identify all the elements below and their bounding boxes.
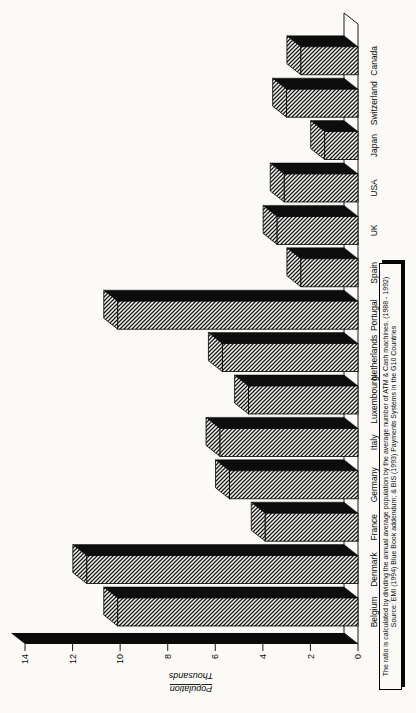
bar-front-face	[249, 386, 358, 414]
y-axis-title-line2: Thousands	[168, 671, 213, 681]
y-tick-label: 6	[210, 654, 220, 659]
bar-front-face	[118, 301, 358, 329]
x-category-label: Italy	[369, 434, 379, 450]
x-category-label: UK	[369, 224, 379, 236]
bar-front-face	[87, 556, 358, 584]
bar-belgium	[104, 587, 358, 626]
bar-usa	[270, 163, 358, 202]
x-category-label: Netherlands	[369, 335, 379, 381]
y-axis-title-line1: Population	[170, 684, 213, 694]
x-category-label: Switzerland	[369, 81, 379, 125]
bar-canada	[287, 36, 358, 75]
bar-side-face	[216, 460, 358, 471]
x-category-label: Spain	[369, 262, 379, 284]
x-category-label: Belgium	[369, 597, 379, 628]
bar-front-face	[230, 471, 358, 499]
axis-wall	[11, 633, 358, 644]
x-category-label: USA	[369, 179, 379, 197]
bar-side-face	[206, 417, 358, 428]
bar-front-face	[301, 259, 358, 287]
bar-netherlands	[208, 333, 358, 372]
bar-germany	[216, 460, 358, 499]
bar-side-face	[104, 290, 358, 301]
y-tick-label: 4	[258, 654, 268, 659]
y-tick-label: 14	[20, 654, 30, 664]
bar-front-face	[265, 513, 358, 541]
bar-front-face	[287, 89, 358, 117]
bar-chart-3d: 02468101214BelgiumDenmarkFranceGermanyIt…	[0, 0, 416, 713]
bar-france	[251, 502, 358, 541]
y-tick-label: 2	[306, 654, 316, 659]
x-category-label: Japan	[369, 134, 379, 157]
bar-side-face	[208, 333, 358, 344]
y-tick-label: 12	[68, 654, 78, 664]
bar-front-face	[301, 47, 358, 75]
bar-front-face	[284, 174, 358, 202]
x-category-label: France	[369, 514, 379, 541]
x-category-label: Portugal	[369, 299, 379, 331]
x-category-label: Canada	[369, 46, 379, 76]
bar-front-face	[222, 344, 358, 372]
x-category-label: Denmark	[369, 552, 379, 587]
scanned-page: 02468101214BelgiumDenmarkFranceGermanyIt…	[0, 0, 416, 713]
bar-denmark	[73, 545, 358, 584]
bar-side-face	[263, 205, 358, 216]
bar-front-face	[325, 132, 358, 160]
bar-portugal	[104, 290, 358, 329]
bar-spain	[287, 248, 358, 287]
bar-side-face	[251, 502, 358, 513]
x-category-label: Germany	[369, 467, 379, 503]
bar-uk	[263, 205, 358, 244]
y-tick-label: 10	[115, 654, 125, 664]
x-category-label: Luxembourg	[369, 376, 379, 424]
bar-front-face	[118, 598, 358, 626]
bar-front-face	[220, 428, 358, 456]
bar-side-face	[73, 545, 358, 556]
footnote-ratio-note: The ratio is calculated by dividing the …	[382, 267, 390, 686]
bar-switzerland	[273, 78, 358, 117]
bar-front-face	[277, 216, 358, 244]
bar-side-face	[104, 587, 358, 598]
rotated-chart-canvas: 02468101214BelgiumDenmarkFranceGermanyIt…	[0, 0, 416, 713]
footnote-box: The ratio is calculated by dividing the …	[379, 263, 402, 690]
bar-luxembourg	[235, 375, 358, 414]
y-tick-label: 0	[353, 654, 363, 659]
bar-side-face	[270, 163, 358, 174]
bar-italy	[206, 417, 358, 456]
bar-side-face	[273, 78, 358, 89]
footnote-source: Source: EMI (1994) Blue Book addendum; &…	[390, 267, 398, 686]
bar-side-face	[235, 375, 358, 386]
y-tick-label: 8	[163, 654, 173, 659]
bar-japan	[311, 121, 358, 160]
